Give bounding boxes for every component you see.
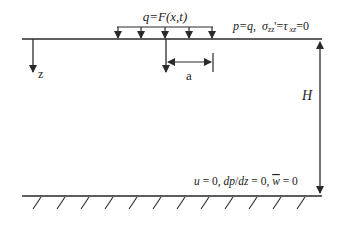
depth-label: H xyxy=(301,88,313,103)
distributed-load xyxy=(117,27,213,38)
top-boundary-condition: p=q, σzz'=τxz=0 xyxy=(232,19,309,34)
width-label: a xyxy=(186,68,192,83)
bottom-boundary-condition: u = 0, dp/dz = 0, w = 0 xyxy=(194,175,298,188)
fixed-base-hatching xyxy=(33,197,305,209)
z-axis-label: z xyxy=(38,67,43,81)
load-label: q=F(x,t) xyxy=(143,9,188,24)
diagram-canvas: q=F(x,t) p=q, σzz'=τxz=0 z a H u = 0, dp… xyxy=(0,0,347,229)
